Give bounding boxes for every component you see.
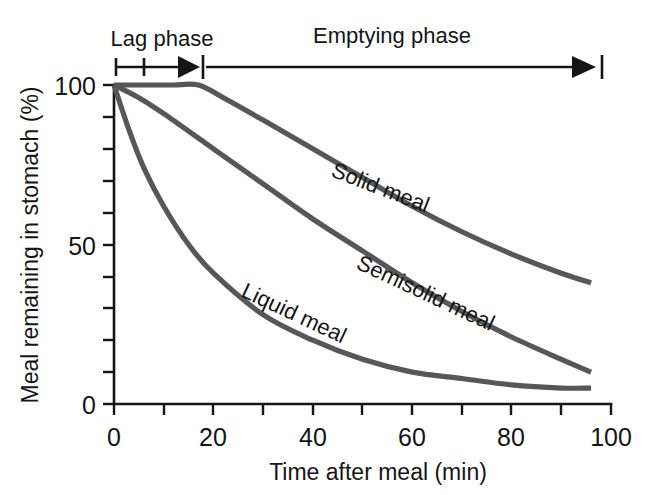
emptying-phase-label: Emptying phase xyxy=(313,23,471,48)
x-tick-label-100: 100 xyxy=(590,423,632,451)
series-line-semisolid-meal xyxy=(114,85,591,372)
x-axis-ticks xyxy=(114,404,611,415)
x-tick-labels: 0 20 40 60 80 100 xyxy=(107,423,632,451)
y-axis-title: Meal remaining in stomach (%) xyxy=(17,86,43,403)
x-tick-label-0: 0 xyxy=(107,423,121,451)
y-tick-label-50: 50 xyxy=(68,232,96,260)
y-axis-ticks xyxy=(103,85,114,404)
x-tick-label-60: 60 xyxy=(398,423,426,451)
lag-phase-arrow-head xyxy=(178,56,200,78)
y-tick-labels: 100 50 0 xyxy=(54,72,96,419)
series-labels: Solid meal Semisolid meal Liquid meal xyxy=(238,157,499,348)
data-series-group xyxy=(114,84,591,388)
series-label-solid-meal: Solid meal xyxy=(328,157,433,217)
chart-figure: Lag phase Emptying phase xyxy=(0,0,660,495)
lag-phase-label: Lag phase xyxy=(111,26,214,51)
y-tick-label-0: 0 xyxy=(82,391,96,419)
y-tick-label-100: 100 xyxy=(54,72,96,100)
x-axis-title: Time after meal (min) xyxy=(269,459,487,485)
x-tick-label-20: 20 xyxy=(199,423,227,451)
series-label-liquid-meal: Liquid meal xyxy=(238,278,351,348)
series-label-semisolid-meal: Semisolid meal xyxy=(353,250,499,336)
x-tick-label-40: 40 xyxy=(299,423,327,451)
x-tick-label-80: 80 xyxy=(497,423,525,451)
stomach-emptying-chart: Lag phase Emptying phase xyxy=(0,0,660,495)
phase-annotations: Lag phase Emptying phase xyxy=(111,23,602,79)
emptying-phase-arrow-head xyxy=(572,56,596,78)
